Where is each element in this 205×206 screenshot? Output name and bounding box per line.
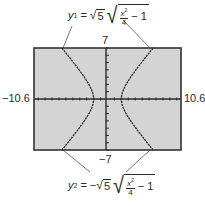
- sqrt5: √5: [90, 8, 105, 22]
- ymin-label: −7: [99, 153, 112, 165]
- sqrt-radical: √ x2 4 − 1: [107, 4, 149, 27]
- xmax-label: 10.6: [184, 92, 205, 104]
- equation-y2: y2 = − √5 √ x2 4 − 1: [68, 174, 155, 197]
- xmin-label: −10.6: [2, 92, 30, 104]
- sqrt5: √5: [96, 178, 111, 192]
- equation-y1: y1 = √5 √ x2 4 − 1: [68, 4, 149, 27]
- ymax-label: 7: [102, 34, 108, 46]
- sqrt-radical: √ x2 4 − 1: [113, 174, 155, 197]
